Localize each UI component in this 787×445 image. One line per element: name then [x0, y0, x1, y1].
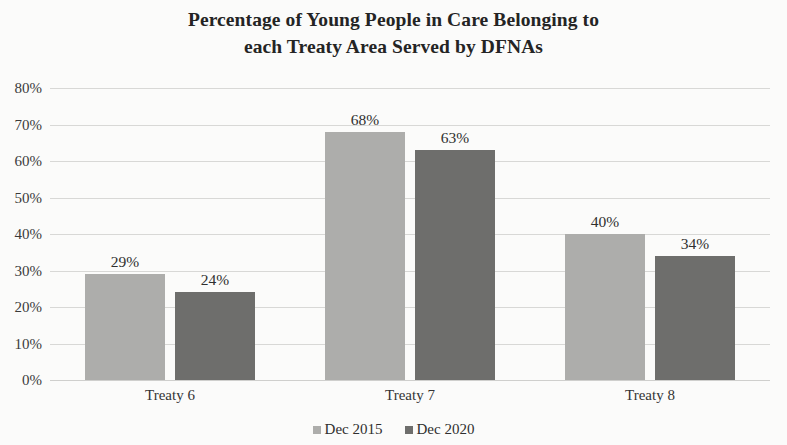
bar — [85, 274, 165, 380]
y-axis-tick-label: 40% — [0, 227, 42, 242]
y-axis-tick-label: 50% — [0, 191, 42, 206]
y-axis-tick-label: 30% — [0, 264, 42, 279]
chart-title-line-2: each Treaty Area Served by DFNAs — [0, 33, 787, 60]
gridline — [50, 88, 770, 89]
x-axis-tick-label: Treaty 7 — [290, 386, 530, 404]
bar — [415, 150, 495, 380]
legend-label: Dec 2020 — [417, 422, 475, 437]
bar — [325, 132, 405, 380]
bar-chart: Percentage of Young People in Care Belon… — [0, 0, 787, 445]
chart-title: Percentage of Young People in Care Belon… — [0, 6, 787, 60]
gridline — [50, 380, 770, 381]
legend-label: Dec 2015 — [325, 422, 383, 437]
legend-item[interactable]: Dec 2015 — [313, 422, 383, 437]
gridline — [50, 234, 770, 235]
gridline — [50, 161, 770, 162]
bar-value-label: 63% — [415, 130, 495, 146]
x-axis-tick-label: Treaty 6 — [50, 386, 290, 404]
bar-value-label: 68% — [325, 112, 405, 128]
legend-item[interactable]: Dec 2020 — [405, 422, 475, 437]
bar-value-label: 34% — [655, 236, 735, 252]
bar — [175, 292, 255, 380]
gridline — [50, 198, 770, 199]
chart-legend: Dec 2015Dec 2020 — [0, 422, 787, 437]
chart-title-line-1: Percentage of Young People in Care Belon… — [0, 6, 787, 33]
x-axis-tick-label: Treaty 8 — [530, 386, 770, 404]
plot-area — [50, 88, 770, 380]
legend-swatch-icon — [313, 426, 321, 434]
bar-value-label: 40% — [565, 214, 645, 230]
gridline — [50, 125, 770, 126]
legend-swatch-icon — [405, 426, 413, 434]
bar — [655, 256, 735, 380]
bar-value-label: 24% — [175, 272, 255, 288]
y-axis-tick-label: 80% — [0, 81, 42, 96]
y-axis-tick-label: 60% — [0, 154, 42, 169]
bar-value-label: 29% — [85, 254, 165, 270]
bar — [565, 234, 645, 380]
y-axis-tick-label: 20% — [0, 300, 42, 315]
y-axis-tick-label: 70% — [0, 118, 42, 133]
y-axis-tick-label: 0% — [0, 373, 42, 388]
y-axis-tick-label: 10% — [0, 337, 42, 352]
